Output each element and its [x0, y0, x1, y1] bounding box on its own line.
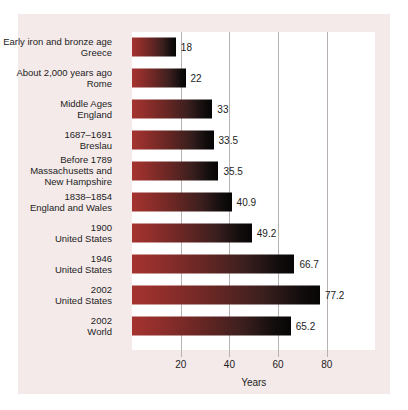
- chart-row: 1900 United States49.2: [18, 217, 390, 248]
- bar: [132, 161, 218, 180]
- bar: [132, 223, 252, 242]
- chart-row: 1838–1854 England and Wales40.9: [18, 186, 390, 217]
- bar-value-label: 33.5: [214, 134, 238, 145]
- bar: [132, 130, 214, 149]
- category-label: 1838–1854 England and Wales: [0, 190, 112, 212]
- bar: [132, 254, 294, 273]
- bar-value-label: 22: [186, 72, 202, 83]
- bar: [132, 68, 186, 87]
- chart-row: 1946 United States66.7: [18, 248, 390, 279]
- chart-row: Middle Ages England33: [18, 93, 390, 124]
- bar: [132, 192, 232, 211]
- bar-value-label: 65.2: [291, 320, 315, 331]
- bar-value-label: 40.9: [232, 196, 256, 207]
- category-label: 1687–1691 Breslau: [0, 128, 112, 150]
- chart-row: 2002 World65.2: [18, 310, 390, 341]
- bar-value-label: 77.2: [320, 289, 344, 300]
- bar-value-label: 18: [176, 41, 192, 52]
- category-label: About 2,000 years ago Rome: [0, 66, 112, 88]
- category-label: 2002 World: [0, 314, 112, 336]
- category-label: Early iron and bronze age Greece: [0, 35, 112, 57]
- bar: [132, 99, 212, 118]
- bar-value-label: 49.2: [252, 227, 276, 238]
- category-label: Middle Ages England: [0, 97, 112, 119]
- bar-value-label: 35.5: [218, 165, 242, 176]
- category-label: 1900 United States: [0, 221, 112, 243]
- chart-row: 2002 United States77.2: [18, 279, 390, 310]
- bar: [132, 316, 291, 335]
- category-label: 2002 United States: [0, 283, 112, 305]
- bar: [132, 285, 320, 304]
- bar-value-label: 33: [212, 103, 228, 114]
- chart-row: 1687–1691 Breslau33.5: [18, 124, 390, 155]
- chart-row: Early iron and bronze age Greece18: [18, 31, 390, 62]
- bar: [132, 37, 176, 56]
- category-label: 1946 United States: [0, 252, 112, 274]
- axis-title-years: Years: [194, 377, 314, 388]
- category-label: Before 1789 Massachusetts and New Hampsh…: [0, 154, 112, 188]
- figure-card: Early iron and bronze age Greece18About …: [18, 14, 390, 394]
- bar-rows: Early iron and bronze age Greece18About …: [18, 14, 390, 394]
- chart-row: Before 1789 Massachusetts and New Hampsh…: [18, 155, 390, 186]
- chart-row: About 2,000 years ago Rome22: [18, 62, 390, 93]
- bar-value-label: 66.7: [294, 258, 318, 269]
